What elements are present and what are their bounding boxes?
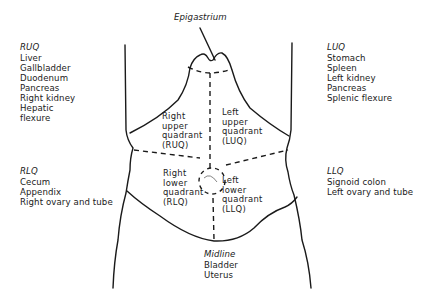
luq-heading: LUQ	[327, 42, 392, 52]
horizontal-line-left	[134, 150, 200, 158]
rlq-heading: RLQ	[20, 166, 113, 176]
quadrant-label-ruq: Right upper quadrant (RUQ)	[162, 112, 203, 150]
ruq-heading: RUQ	[20, 42, 75, 52]
lower-abdomen-contour	[127, 191, 297, 241]
epigastrium-label: Epigastrium	[174, 12, 227, 23]
quadrant-label-rlq: Right lower quadrant (RLQ)	[163, 169, 204, 207]
vertical-midline-lower	[213, 198, 214, 240]
right-body-contour	[286, 43, 311, 288]
midline-organ-list: Midline Bladder Uterus	[204, 249, 238, 280]
luq-organ-list: LUQ Stomach Spleen Left kidney Pancreas …	[327, 42, 392, 103]
midline-heading: Midline	[204, 249, 238, 259]
quadrant-label-luq: Left upper quadrant (LUQ)	[222, 108, 263, 146]
llq-heading: LLQ	[327, 166, 413, 176]
epigastrium-pointer-line	[200, 28, 215, 60]
umbilicus-icon	[204, 176, 217, 182]
left-body-contour	[113, 45, 133, 288]
llq-organ-list: LLQ Signoid colon Left ovary and tube	[327, 166, 413, 197]
quadrant-label-llq: Left lower quadrant (LLQ)	[222, 176, 263, 214]
epigastrium-arc	[188, 67, 232, 73]
ruq-organ-list: RUQ Liver Gallbladder Duodenum Pancreas …	[20, 42, 75, 123]
horizontal-line-right	[226, 150, 288, 165]
rlq-organ-list: RLQ Cecum Appendix Right ovary and tube	[20, 166, 113, 207]
